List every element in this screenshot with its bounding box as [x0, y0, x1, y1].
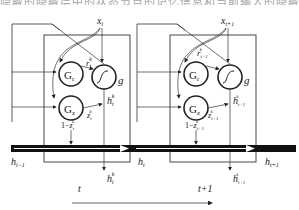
hidden-state-t: ht — [138, 156, 145, 168]
cell-t: Gr g rtk Gz htk ztk 1−ztk xt htk t — [12, 15, 130, 194]
activation-label: g — [244, 74, 250, 86]
svg-text:ht+1k: ht+1k — [233, 94, 245, 107]
svg-text:1−zt+1k: 1−zt+1k — [185, 119, 204, 131]
hidden-state-t-minus-1: ht−1 — [11, 156, 25, 168]
cell-box — [44, 35, 130, 162]
svg-text:1−ztk: 1−ztk — [61, 119, 75, 131]
recurrent-frame — [12, 24, 60, 68]
cell-t-plus-1: Gr g rt+1k Gz ht+1k zt+1k 1−zt+1k xt+1 h… — [137, 15, 256, 194]
svg-text:xt+1: xt+1 — [220, 15, 234, 27]
input-label-xt: xt — [96, 15, 103, 27]
activation-circle — [92, 65, 116, 89]
svg-text:htk: htk — [107, 93, 115, 107]
activation-label: g — [118, 74, 124, 86]
time-label-t-plus-1: t+1 — [198, 183, 213, 194]
svg-text:ht+1k: ht+1k — [233, 172, 245, 185]
hidden-state-t-plus-1: ht+1 — [265, 156, 279, 168]
cell-box — [170, 35, 256, 162]
svg-text:zt+1k: zt+1k — [207, 109, 218, 121]
output-label-ht: htk — [107, 171, 115, 185]
time-label-t: t — [78, 183, 81, 194]
svg-text:rtk: rtk — [86, 56, 92, 69]
svg-text:rt+1k: rt+1k — [197, 47, 208, 59]
gru-unrolled-diagram: Gr g rtk Gz htk ztk 1−ztk xt htk t — [0, 0, 299, 210]
svg-text:ztk: ztk — [86, 109, 93, 121]
